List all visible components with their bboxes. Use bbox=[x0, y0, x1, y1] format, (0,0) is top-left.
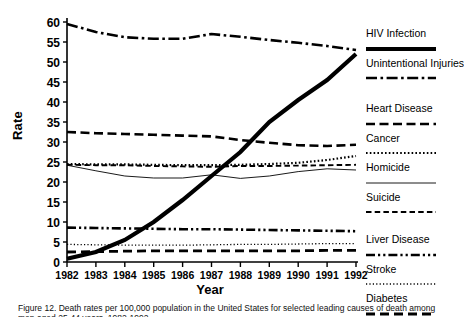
legend-swatch bbox=[366, 74, 438, 81]
series-line-heart-disease bbox=[67, 132, 356, 146]
x-tick-label: 1988 bbox=[229, 269, 253, 281]
x-tick-label: 1989 bbox=[258, 269, 282, 281]
y-tick-label: 5 bbox=[53, 236, 60, 250]
legend-label: Suicide bbox=[366, 192, 454, 204]
y-tick-label: 20 bbox=[47, 176, 61, 190]
y-tick-label: 55 bbox=[47, 36, 61, 50]
y-tick-label: 30 bbox=[47, 136, 61, 150]
series-line-hiv-infection bbox=[67, 54, 356, 259]
x-tick-label: 1985 bbox=[142, 269, 166, 281]
y-tick-label: 35 bbox=[47, 116, 61, 130]
y-tick-label: 60 bbox=[47, 16, 61, 30]
legend-item-cancer: Cancer bbox=[366, 133, 454, 163]
y-tick-label: 50 bbox=[47, 56, 61, 70]
y-tick-label: 40 bbox=[47, 96, 61, 110]
series-line-cancer bbox=[67, 156, 356, 165]
legend-label: Stroke bbox=[366, 264, 454, 276]
legend-swatch bbox=[366, 120, 438, 127]
series-line-unintentional-injuries bbox=[67, 24, 356, 50]
legend-swatch bbox=[366, 208, 438, 215]
legend-swatch bbox=[366, 179, 438, 186]
legend-item-homicide: Homicide bbox=[366, 162, 454, 192]
x-tick-label: 1987 bbox=[200, 269, 224, 281]
legend-label: Heart Disease bbox=[366, 103, 454, 115]
x-tick-label: 1990 bbox=[287, 269, 311, 281]
figure-caption: Figure 12. Death rates per 100,000 popul… bbox=[18, 303, 438, 317]
y-tick-label: 0 bbox=[53, 256, 60, 270]
series-line-diabetes bbox=[67, 250, 356, 252]
y-tick-label: 10 bbox=[47, 216, 61, 230]
legend-item-hiv-infection: HIV Infection bbox=[366, 28, 454, 58]
x-tick-label: 1991 bbox=[315, 269, 339, 281]
legend-item-stroke: Stroke bbox=[366, 264, 454, 294]
legend-label: Liver Disease bbox=[366, 234, 454, 246]
plot-area: 0510152025303540455055601982198319841985… bbox=[0, 0, 370, 290]
legend-group-spacer bbox=[366, 87, 454, 103]
x-tick-label: 1984 bbox=[113, 269, 137, 281]
legend-swatch bbox=[366, 149, 438, 156]
legend-swatch bbox=[366, 280, 438, 287]
legend-item-unintentional-injuries: Unintentional Injuries bbox=[366, 58, 454, 88]
legend-item-suicide: Suicide bbox=[366, 192, 454, 222]
legend-swatch bbox=[366, 251, 438, 258]
x-tick-label: 1983 bbox=[84, 269, 108, 281]
legend-item-liver-disease: Liver Disease bbox=[366, 234, 454, 264]
x-axis-label: Year bbox=[130, 282, 290, 297]
x-tick-label: 1982 bbox=[55, 269, 79, 281]
y-tick-label: 15 bbox=[47, 196, 61, 210]
legend-label: Unintentional Injuries bbox=[366, 58, 454, 70]
x-tick-label: 1986 bbox=[171, 269, 195, 281]
legend-label: HIV Infection bbox=[366, 28, 454, 40]
chart-svg: 0510152025303540455055601982198319841985… bbox=[0, 0, 370, 290]
legend-swatch bbox=[366, 45, 438, 52]
y-tick-label: 45 bbox=[47, 76, 61, 90]
legend-label: Homicide bbox=[366, 162, 454, 174]
legend: HIV InfectionUnintentional InjuriesHeart… bbox=[366, 28, 454, 317]
series-line-liver-disease bbox=[67, 228, 356, 232]
y-tick-label: 25 bbox=[47, 156, 61, 170]
legend-label: Cancer bbox=[366, 133, 454, 145]
legend-item-heart-disease: Heart Disease bbox=[366, 103, 454, 133]
x-tick-label: 1992 bbox=[344, 269, 368, 281]
